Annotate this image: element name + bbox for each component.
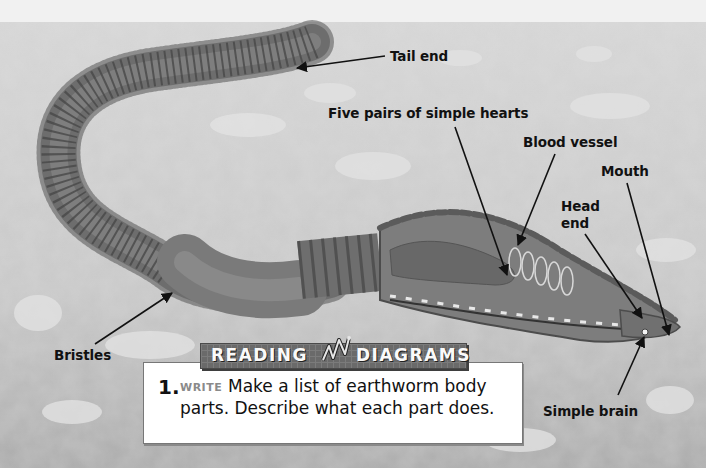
- question-box: 1. WRITE Make a list of earthworm body p…: [143, 362, 523, 444]
- label-bristles: Bristles: [54, 347, 111, 363]
- earthworm-diagram: Tail end Five pairs of simple hearts Blo…: [0, 0, 706, 468]
- banner-diagrams: DIAGRAMS: [356, 345, 471, 365]
- label-mouth: Mouth: [601, 163, 649, 179]
- pen-squiggle-icon: [319, 332, 353, 366]
- banner-reading: READING: [211, 345, 308, 365]
- label-blood-vessel: Blood vessel: [523, 134, 617, 150]
- label-tail-end: Tail end: [390, 48, 448, 64]
- label-simple-brain: Simple brain: [543, 403, 638, 419]
- reading-diagrams-banner: READING DIAGRAMS: [200, 343, 467, 369]
- question-line-2: parts. Describe what each part does.: [180, 398, 494, 418]
- question-line-1: Make a list of earthworm body: [228, 376, 486, 396]
- label-five-pairs-hearts: Five pairs of simple hearts: [328, 105, 528, 121]
- question-number: 1.: [158, 375, 180, 399]
- label-head: Head: [561, 198, 600, 214]
- label-end: end: [561, 215, 589, 231]
- question-tag: WRITE: [180, 381, 222, 394]
